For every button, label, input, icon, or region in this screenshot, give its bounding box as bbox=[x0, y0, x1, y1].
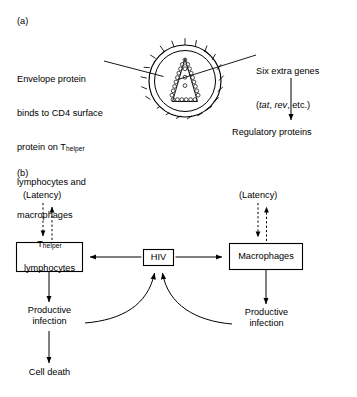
gene-tat: tat bbox=[259, 100, 269, 110]
node-label-macrophages[interactable]: Macrophages bbox=[229, 243, 303, 270]
caption-line-3: protein on Thelper bbox=[17, 142, 103, 155]
caption-line-3-text: protein on T bbox=[17, 142, 66, 152]
t-helper-subscript: helper bbox=[43, 243, 62, 250]
caption-line-1: Envelope protein bbox=[17, 74, 103, 85]
t-helper-line-1: Thelper bbox=[24, 239, 75, 252]
arrow-productive-right-to-hiv bbox=[163, 273, 233, 324]
leader-line-envelope-protein bbox=[104, 61, 164, 77]
extra-genes-caption: Six extra genes (tat, rev, etc.) bbox=[256, 44, 319, 134]
regulatory-proteins-label: Regulatory proteins bbox=[232, 127, 312, 138]
latency-label-right: (Latency) bbox=[239, 190, 277, 201]
hiv-figure: (a) Envelope protein binds to CD4 surfac… bbox=[0, 0, 357, 397]
gene-rev: rev bbox=[274, 100, 287, 110]
t-helper-line-2: lymphocytes bbox=[24, 263, 75, 274]
extra-genes-line-1: Six extra genes bbox=[256, 66, 319, 77]
panel-a-label: (a) bbox=[17, 16, 28, 27]
node-label-t-helper-text: Thelper lymphocytes bbox=[24, 228, 75, 285]
envelope-protein-caption: Envelope protein binds to CD4 surface pr… bbox=[17, 52, 103, 244]
productive-infection-left: Productive infection bbox=[12, 305, 87, 327]
gene-tail: , etc.) bbox=[287, 100, 310, 110]
panel-b-label: (b) bbox=[17, 168, 28, 179]
arrow-productive-left-to-hiv bbox=[85, 273, 155, 323]
latency-label-left: (Latency) bbox=[23, 190, 61, 201]
node-label-t-helper-lymphocytes[interactable]: Thelper lymphocytes bbox=[16, 242, 83, 272]
cell-death-label: Cell death bbox=[12, 367, 87, 378]
envelope-outer-circle bbox=[149, 45, 221, 117]
caption-line-4: lymphocytes and bbox=[17, 177, 103, 188]
productive-infection-right: Productive infection bbox=[229, 307, 304, 329]
node-label-hiv[interactable]: HIV bbox=[143, 249, 174, 266]
extra-genes-line-2: (tat, rev, etc.) bbox=[256, 100, 319, 111]
caption-line-5: macrophages bbox=[17, 210, 103, 221]
caption-line-2: binds to CD4 surface bbox=[17, 108, 103, 119]
caption-line-3-subscript: helper bbox=[66, 145, 85, 152]
